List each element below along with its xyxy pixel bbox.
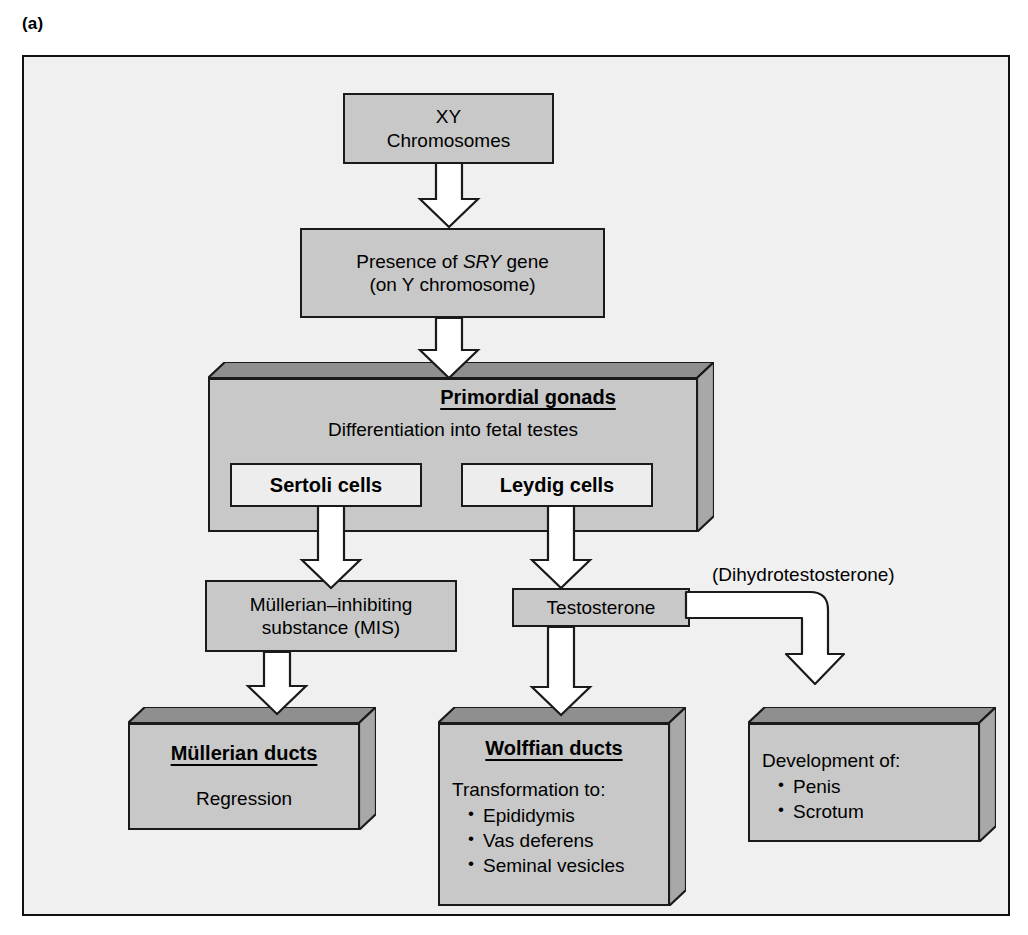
sertoli-label: Sertoli cells: [270, 474, 382, 497]
wolffian-title: Wolffian ducts: [485, 737, 622, 760]
node-mullerian-ducts: Müllerian ducts Regression: [128, 707, 376, 830]
node-testosterone: Testosterone: [512, 588, 690, 627]
label-dihydrotestosterone: (Dihydrotestosterone): [712, 564, 895, 586]
mullerian-content: Müllerian ducts Regression: [128, 723, 360, 830]
mis-line1: Müllerian–inhibiting: [250, 593, 413, 616]
arrow-leydig-to-testosterone: [530, 506, 592, 590]
genitalia-items: Penis Scrotum: [764, 775, 864, 824]
sry-prefix: Presence of: [356, 251, 463, 272]
wolffian-items: Epididymis Vas deferens Seminal vesicles: [454, 804, 625, 878]
node-mis: Müllerian–inhibiting substance (MIS): [205, 580, 457, 652]
xy-chromosomes-line2: Chromosomes: [387, 129, 511, 152]
arrow-xy-to-sry: [418, 163, 480, 229]
arrow-sertoli-to-mis: [300, 506, 362, 590]
node-sertoli-cells: Sertoli cells: [230, 463, 422, 507]
node-sry-gene: Presence of SRY gene (on Y chromosome): [300, 228, 605, 318]
list-item: Epididymis: [468, 804, 625, 829]
genitalia-body: Development of:: [762, 749, 900, 773]
xy-chromosomes-line1: XY: [436, 105, 461, 128]
mullerian-title: Müllerian ducts: [171, 742, 318, 765]
mullerian-body: Regression: [196, 787, 292, 811]
list-item: Scrotum: [778, 800, 864, 825]
arrow-sry-to-gonads: [418, 318, 480, 380]
testosterone-label: Testosterone: [547, 596, 656, 619]
sry-suffix: gene: [501, 251, 549, 272]
arrow-testosterone-to-genitalia: [686, 592, 846, 717]
gonads-subtitle: Differentiation into fetal testes: [328, 418, 578, 442]
wolffian-content: Wolffian ducts Transformation to: Epidid…: [438, 723, 670, 906]
sry-line2: (on Y chromosome): [369, 273, 535, 296]
node-xy-chromosomes: XY Chromosomes: [343, 93, 554, 164]
wolffian-body: Transformation to:: [452, 778, 605, 802]
node-primordial-gonads: Primordial gonads Differentiation into f…: [208, 362, 714, 532]
figure-root: (a) XY Chromosomes Presence of SRY gene …: [0, 0, 1028, 935]
sry-line1: Presence of SRY gene: [356, 250, 549, 273]
node-leydig-cells: Leydig cells: [461, 463, 653, 507]
list-item: Penis: [778, 775, 864, 800]
arrow-mis-to-mullerian-ducts: [246, 652, 308, 716]
arrow-testosterone-to-wolffian-ducts: [530, 627, 592, 717]
gonads-content: Primordial gonads Differentiation into f…: [208, 378, 698, 532]
leydig-label: Leydig cells: [500, 474, 615, 497]
genitalia-content: Development of: Penis Scrotum: [748, 723, 980, 842]
gonads-title: Primordial gonads: [440, 386, 616, 409]
node-external-genitalia: Development of: Penis Scrotum: [748, 707, 996, 842]
panel-label: (a): [22, 14, 43, 34]
node-wolffian-ducts: Wolffian ducts Transformation to: Epidid…: [438, 707, 686, 906]
sry-gene-name: SRY: [463, 251, 501, 272]
mis-line2: substance (MIS): [262, 616, 400, 639]
list-item: Vas deferens: [468, 829, 625, 854]
list-item: Seminal vesicles: [468, 854, 625, 879]
